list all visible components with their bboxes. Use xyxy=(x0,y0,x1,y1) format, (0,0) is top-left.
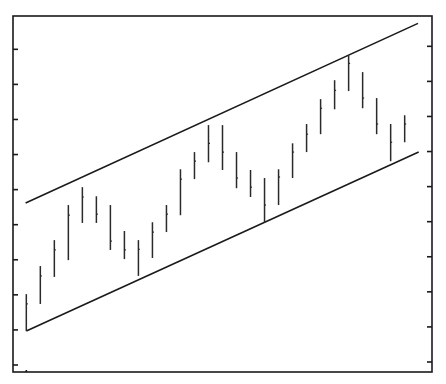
plot-frame xyxy=(13,16,432,372)
upper-channel-line xyxy=(26,23,418,203)
price-channel-chart xyxy=(0,0,446,384)
lower-channel-line xyxy=(26,152,418,331)
